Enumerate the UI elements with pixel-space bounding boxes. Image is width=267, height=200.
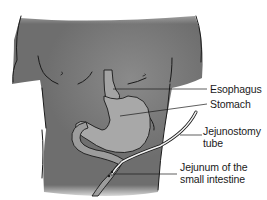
label-stomach: Stomach bbox=[210, 99, 251, 110]
label-jejunostomy-tube-line2: tube bbox=[203, 138, 223, 149]
label-jejunum-line2: small intestine bbox=[180, 174, 245, 185]
label-esophagus: Esophagus bbox=[210, 84, 262, 95]
label-jejunum-line1: Jejunum of the bbox=[180, 162, 247, 173]
label-jejunostomy-tube-line1: Jejunostomy bbox=[203, 126, 261, 137]
